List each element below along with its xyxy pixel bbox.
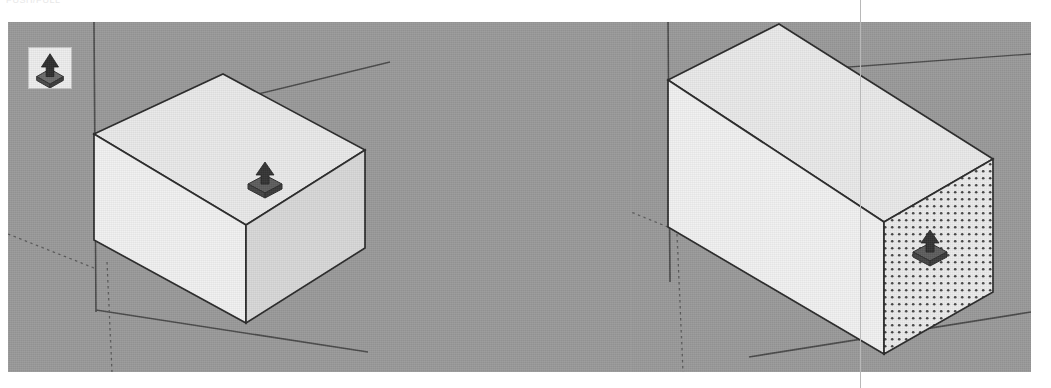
box-extruded-after[interactable] [668, 24, 993, 354]
scene-after [631, 22, 1031, 372]
sketchup-viewport-after[interactable] [631, 22, 1031, 372]
scanned-page: PUSH/PULL [0, 0, 1051, 388]
cut-off-heading-text: PUSH/PULL [6, 0, 126, 5]
push-pull-icon [29, 48, 71, 88]
page-gutter-rule [860, 0, 861, 388]
push-pull-tool-button[interactable] [28, 47, 72, 89]
axis-lines-dotted [8, 234, 113, 372]
axis-lines-dotted [631, 212, 683, 372]
